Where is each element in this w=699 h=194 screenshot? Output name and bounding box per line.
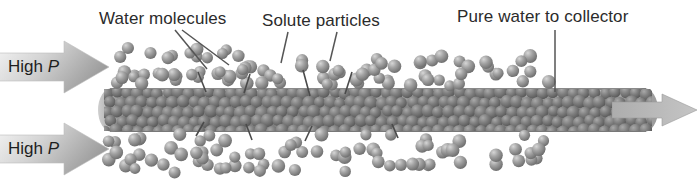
label-pure-water-to-collector: Pure water to collector	[457, 7, 628, 26]
pressure-arrow-bottom: High P	[0, 122, 110, 176]
pressure-label-bottom: High P	[8, 139, 59, 159]
leader-solute-2	[330, 32, 337, 61]
label-solute-particles: Solute particles	[262, 11, 380, 30]
pressure-arrow-top: High P	[0, 40, 110, 94]
leader-solute-1	[281, 32, 288, 63]
permeation-stems	[196, 70, 398, 141]
label-water-molecules: Water molecules	[99, 9, 226, 28]
outflow-arrow	[612, 93, 698, 127]
pressure-label-top: High P	[8, 57, 59, 77]
osmosis-diagram: Water molecules Solute particles Pure wa…	[0, 0, 699, 194]
